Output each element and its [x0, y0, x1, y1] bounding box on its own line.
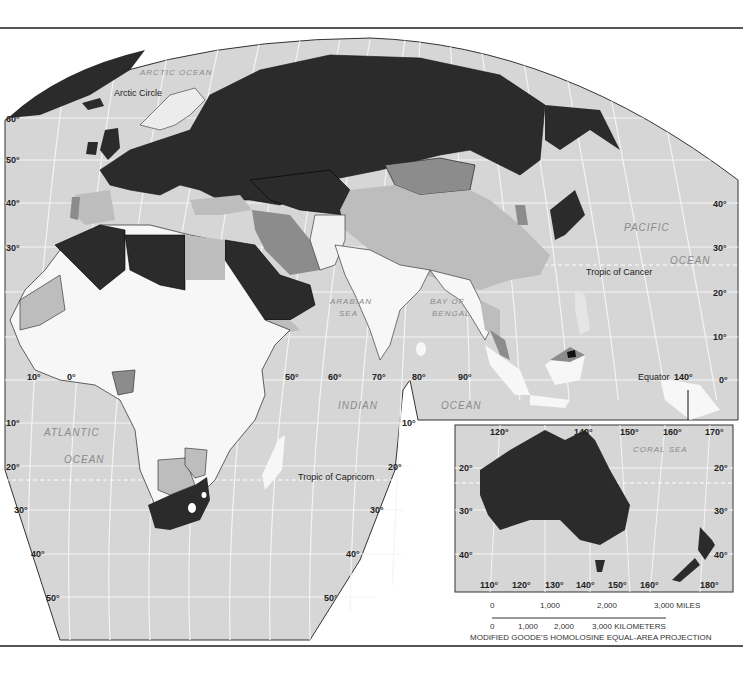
lat-tick: 40° [346, 549, 360, 559]
lat-tick: 40° [713, 199, 727, 209]
scale-km-3000: 3,000 KILOMETERS [592, 622, 666, 631]
lon-tick: 0° [67, 372, 76, 382]
inset-lat-tick: 30° [459, 506, 473, 516]
lat-tick: 10° [713, 332, 727, 342]
lat-tick: 40° [6, 198, 20, 208]
lon-tick: 70° [372, 372, 386, 382]
lat-tick: 0° [719, 375, 728, 385]
label-arabian-sea-2: SEA [339, 309, 358, 318]
label-indian: INDIAN [338, 400, 378, 411]
inset-lon-tick: 160° [663, 427, 682, 437]
inset-lon-tick: 140° [576, 580, 595, 590]
lat-tick: 60° [6, 114, 20, 124]
lon-tick: 80° [412, 372, 426, 382]
lon-tick: 90° [458, 372, 472, 382]
scale-km-1000: 1,000 [518, 622, 538, 631]
scale-miles-3000: 3,000 MILES [654, 601, 700, 610]
lat-tick: 10° [402, 418, 416, 428]
label-tropic-of-capricorn: Tropic of Capricorn [298, 472, 374, 482]
lon-tick: 140° [674, 372, 693, 382]
label-atlantic: ATLANTIC [44, 427, 100, 438]
lat-tick: 30° [713, 243, 727, 253]
scale-miles-0: 0 [490, 601, 494, 610]
lat-tick: 50° [6, 155, 20, 165]
lat-tick: 50° [324, 593, 338, 603]
inset-lon-tick: 150° [608, 580, 627, 590]
label-coral-sea: CORAL SEA [633, 445, 688, 454]
inset-lon-tick: 180° [700, 580, 719, 590]
inset-lat-tick: 40° [459, 550, 473, 560]
lat-tick: 10° [6, 418, 20, 428]
inset-lon-tick: 160° [640, 580, 659, 590]
inset-lat-tick: 30° [714, 506, 728, 516]
projection-caption: MODIFIED GOODE'S HOMOLOSINE EQUAL-AREA P… [470, 633, 712, 642]
label-bay-of-bengal-2: BENGAL [432, 309, 470, 318]
inset-lon-tick: 170° [705, 427, 724, 437]
label-equator: Equator [638, 372, 670, 382]
lat-tick: 20° [713, 288, 727, 298]
lat-tick: 30° [370, 505, 384, 515]
lat-tick: 20° [388, 462, 402, 472]
inset-lat-tick: 20° [714, 463, 728, 473]
lat-tick: 20° [6, 462, 20, 472]
label-arctic-ocean: ARCTIC OCEAN [140, 68, 212, 77]
label-atlantic-ocean: OCEAN [64, 454, 105, 465]
lon-tick: 50° [285, 372, 299, 382]
map-graphic [0, 0, 743, 674]
lat-tick: 30° [14, 505, 28, 515]
lon-tick: 10° [27, 372, 41, 382]
inset-lon-tick: 140° [574, 427, 593, 437]
inset-lon-tick: 130° [545, 580, 564, 590]
inset-lon-tick: 120° [490, 427, 509, 437]
scale-miles-1000: 1,000 [540, 601, 560, 610]
lat-tick: 30° [6, 243, 20, 253]
label-tropic-of-cancer: Tropic of Cancer [586, 267, 652, 277]
label-pacific: PACIFIC [624, 222, 670, 233]
lon-tick: 60° [328, 372, 342, 382]
lat-tick: 40° [31, 549, 45, 559]
label-pacific-ocean: OCEAN [670, 255, 711, 266]
label-bay-of-bengal-1: BAY OF [430, 297, 465, 306]
label-arctic-circle: Arctic Circle [114, 88, 162, 98]
scale-km-0: 0 [490, 622, 494, 631]
label-arabian-sea-1: ARABIAN [330, 297, 372, 306]
scale-miles-2000: 2,000 [597, 601, 617, 610]
lat-tick: 50° [46, 593, 60, 603]
inset-lon-tick: 120° [512, 580, 531, 590]
inset-lat-tick: 40° [714, 550, 728, 560]
scale-km-2000: 2,000 [554, 622, 574, 631]
inset-lon-tick: 150° [620, 427, 639, 437]
label-indian-ocean: OCEAN [441, 400, 482, 411]
inset-lat-tick: 20° [459, 463, 473, 473]
inset-lon-tick: 110° [480, 580, 498, 590]
